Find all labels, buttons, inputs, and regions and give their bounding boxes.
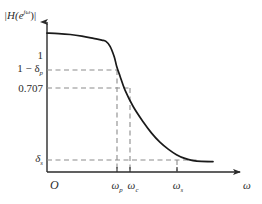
x-axis-title: ω [243,180,251,191]
y-tick-label-passband-ripple: 1 − δp [0,63,43,77]
x-tick-label-omega-p: ωp [111,180,122,194]
y-tick-passband-text: 1 − δ [17,62,39,74]
x-tick-omega-p-text: ω [111,179,119,191]
x-tick-label-omega-c: ωc [128,180,139,194]
x-tick-omega-c-text: ω [128,179,136,191]
x-tick-omega-s-subscript: s [181,186,184,193]
x-tick-omega-p-subscript: p [119,186,122,193]
y-axis-title-head: |H(e [4,9,24,21]
origin-text: O [50,178,59,192]
y-axis-title-tail: )| [30,9,36,21]
x-tick-omega-c-subscript: c [135,186,138,193]
y-tick-label-stopband: δs [0,153,43,167]
y-axis-title: |H(ejω)| [4,9,36,21]
x-axis-title-text: ω [243,179,251,191]
x-tick-label-omega-s: ωs [173,180,183,194]
y-tick-stopband-subscript: s [40,159,43,166]
y-tick-passband-subscript: p [40,69,43,76]
y-tick-label-half-power: 0.707 [0,83,43,94]
x-tick-omega-s-text: ω [173,179,181,191]
y-tick-half-power-text: 0.707 [18,82,43,94]
plot-canvas [0,0,262,204]
y-tick-label-one: 1 [0,50,43,61]
filter-response-figure: |H(ejω)| 1 1 − δp 0.707 δs O ωp ωc ωs ω [0,0,262,204]
y-tick-one-text: 1 [38,49,44,61]
origin-label: O [50,179,59,191]
